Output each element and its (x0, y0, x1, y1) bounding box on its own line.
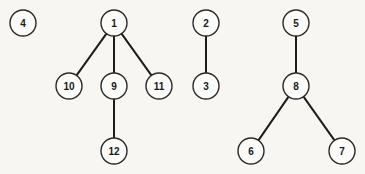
node-3: 3 (193, 73, 219, 99)
node-10: 10 (56, 73, 82, 99)
diagram-svg: 411091112235867 (0, 0, 365, 174)
nodes-layer: 411091112235867 (10, 10, 355, 164)
node-12: 12 (101, 138, 127, 164)
node-label: 6 (248, 146, 254, 157)
node-label: 4 (20, 18, 26, 29)
node-label: 3 (203, 81, 209, 92)
node-11: 11 (146, 73, 172, 99)
node-8: 8 (283, 73, 309, 99)
node-label: 12 (108, 146, 120, 157)
node-6: 6 (238, 138, 264, 164)
edge-8-7 (304, 97, 335, 141)
node-label: 11 (154, 81, 165, 92)
edge-1-10 (77, 34, 107, 76)
node-9: 9 (101, 73, 127, 99)
node-5: 5 (283, 10, 309, 36)
edge-1-11 (122, 34, 152, 76)
node-label: 2 (203, 18, 209, 29)
node-label: 5 (293, 18, 299, 29)
node-2: 2 (193, 10, 219, 36)
edge-8-6 (258, 97, 288, 141)
forest-diagram: 411091112235867 (0, 0, 365, 174)
node-label: 1 (111, 18, 117, 29)
node-label: 8 (293, 81, 299, 92)
node-7: 7 (329, 138, 355, 164)
node-label: 9 (111, 81, 117, 92)
node-label: 7 (339, 146, 345, 157)
node-4: 4 (10, 10, 36, 36)
node-1: 1 (101, 10, 127, 36)
node-label: 10 (63, 81, 75, 92)
